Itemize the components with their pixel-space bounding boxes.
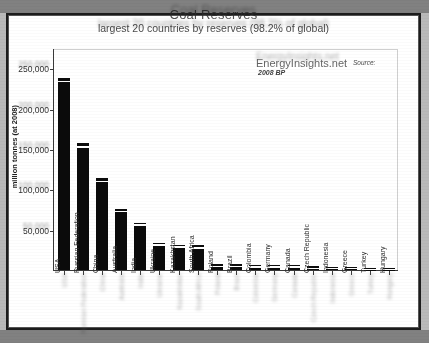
x-axis-tick-label-ghost: India [137, 273, 144, 288]
y-axis-tick-label-ghost: 100,000 [18, 180, 54, 190]
bar-cap-segment [153, 243, 165, 245]
chart-subtitle: largest 20 countries by reserves (98.2% … [6, 22, 421, 34]
x-axis-tick-label: China [92, 255, 99, 273]
x-axis-tick-label: Colombia [245, 243, 252, 273]
x-axis-tick-label: Russian Federation [73, 212, 80, 273]
x-axis-tick-label-ghost: Canada [291, 273, 298, 298]
y-axis-tick-mark [50, 69, 54, 70]
x-axis-tick-label-ghost: Czech Republic [310, 273, 317, 322]
x-axis-tick-label: Brazil [226, 255, 233, 273]
x-axis-tick-label-ghost: China [99, 273, 106, 291]
x-axis-tick-label: Australia [111, 246, 118, 273]
x-axis-tick-label: South Africa [188, 235, 195, 273]
bar-cap-segment [58, 78, 70, 81]
x-axis-tick-label-ghost: Greece [348, 273, 355, 296]
y-axis-tick-mark [50, 110, 54, 111]
x-axis-tick-label-ghost: Turkey [367, 273, 374, 294]
x-axis-tick-label: Greece [341, 250, 348, 273]
bar-cap-segment [134, 223, 146, 225]
x-axis-tick-label: Kazakhstan [169, 236, 176, 273]
x-axis-tick-label-ghost: Brazil [233, 273, 240, 291]
plot-area: 50,00050,000100,000100,000150,000150,000… [53, 49, 398, 271]
x-axis-tick-label-ghost: Russian Federation [80, 273, 87, 334]
bar[interactable] [58, 78, 70, 270]
y-axis-tick-label-ghost: 150,000 [18, 140, 54, 150]
x-axis-tick-label: Ukraine [149, 249, 156, 273]
bar-cap-segment [77, 143, 89, 146]
x-axis-tick-label-ghost: Hungary [386, 273, 393, 299]
y-axis-tick-mark [50, 231, 54, 232]
y-axis-tick-mark [50, 150, 54, 151]
x-axis-tick-label-ghost: Germany [271, 273, 278, 302]
coal-reserves-chart: Coal Reserves Coal Reserves largest 20 c… [6, 13, 421, 330]
x-axis-tick-label: Hungary [379, 247, 386, 273]
y-axis-tick-label-ghost: 200,000 [18, 100, 54, 110]
x-axis-tick-label-ghost: South Africa [195, 273, 202, 311]
x-axis-tick-label-ghost: Ukraine [156, 273, 163, 297]
bar-cap-segment [96, 178, 108, 181]
x-axis-tick-label: Germany [264, 244, 271, 273]
x-axis-tick-label-ghost: Australia [118, 273, 125, 300]
y-axis-tick-label-ghost: 50,000 [23, 221, 54, 231]
screenshot-root: Coal Reserves Coal Reserves largest 20 c… [0, 0, 429, 343]
x-axis-tick-label-ghost: Kazakhstan [176, 273, 183, 310]
y-axis-tick-label-ghost: 250,000 [18, 59, 54, 69]
x-axis-tick-label: Canada [284, 248, 291, 273]
x-axis-tick-label-ghost: USA [61, 273, 68, 287]
x-axis-tick-label: Poland [207, 251, 214, 273]
bar-cap-segment [115, 209, 127, 211]
x-axis-tick-label: Indonesia [322, 243, 329, 273]
bar-body [58, 82, 70, 270]
x-axis-tick-label: Czech Republic [303, 224, 310, 273]
x-axis-tick-label: USA [54, 259, 61, 273]
scan-edge-bottom [0, 330, 429, 343]
x-axis-tick-label-ghost: Colombia [252, 273, 259, 303]
x-axis-tick-label: India [130, 258, 137, 273]
x-axis-tick-label: Turkey [360, 252, 367, 273]
x-axis-tick-label-ghost: Indonesia [329, 273, 336, 303]
x-axis-tick-label-ghost: Poland [214, 273, 221, 295]
y-axis-tick-mark [50, 190, 54, 191]
